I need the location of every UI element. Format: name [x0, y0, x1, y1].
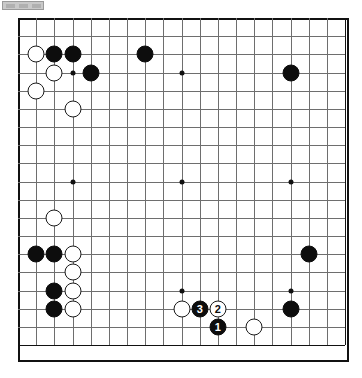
grid-line-vertical [327, 18, 328, 345]
stone-black[interactable] [28, 246, 45, 263]
stone-black[interactable] [282, 64, 299, 81]
stone-white[interactable] [28, 82, 45, 99]
grid-line-horizontal [18, 200, 345, 201]
go-diagram-app: 321 [0, 0, 362, 378]
toolbar-chip-segment [6, 4, 15, 8]
move-number-label: 2 [210, 301, 225, 316]
toolbar-chip[interactable] [2, 1, 44, 10]
stone-white[interactable] [64, 264, 81, 281]
stone-white[interactable] [64, 246, 81, 263]
star-point [288, 288, 293, 293]
grid-line-horizontal [18, 327, 345, 328]
star-point [70, 179, 75, 184]
grid-line-vertical [272, 18, 273, 345]
stone-white[interactable] [46, 209, 63, 226]
stone-white[interactable] [64, 300, 81, 317]
star-point [70, 70, 75, 75]
stone-white[interactable] [28, 46, 45, 63]
grid-line-vertical [218, 18, 219, 345]
go-board[interactable]: 321 [0, 14, 348, 364]
stone-white[interactable] [64, 282, 81, 299]
toolbar-chip-segment [32, 4, 41, 8]
grid-line-horizontal [18, 218, 345, 219]
stone-black[interactable] [82, 64, 99, 81]
stone-black[interactable] [64, 46, 81, 63]
stone-black[interactable] [282, 300, 299, 317]
stone-black[interactable] [300, 246, 317, 263]
stone-white[interactable] [46, 64, 63, 81]
stone-white[interactable] [173, 300, 190, 317]
grid-line-vertical [236, 18, 237, 345]
grid-line-horizontal [18, 236, 345, 237]
star-point [179, 70, 184, 75]
grid-line-vertical [254, 18, 255, 345]
grid-line-horizontal [18, 345, 345, 346]
grid-line-vertical [345, 18, 346, 345]
stone-white[interactable] [64, 100, 81, 117]
stone-black[interactable] [46, 300, 63, 317]
move-stone-1[interactable]: 1 [209, 318, 226, 335]
toolbar-chip-segment [19, 4, 28, 8]
stone-black[interactable] [137, 46, 154, 63]
grid-line-vertical [200, 18, 201, 345]
stone-black[interactable] [46, 46, 63, 63]
stone-black[interactable] [46, 282, 63, 299]
move-number-label: 1 [210, 319, 225, 334]
stone-white[interactable] [246, 318, 263, 335]
star-point [179, 179, 184, 184]
move-stone-2[interactable]: 2 [209, 300, 226, 317]
star-point [179, 288, 184, 293]
star-point [288, 179, 293, 184]
stone-black[interactable] [46, 246, 63, 263]
grid-line-vertical [309, 18, 310, 345]
move-number-label: 3 [192, 301, 207, 316]
move-stone-3[interactable]: 3 [191, 300, 208, 317]
